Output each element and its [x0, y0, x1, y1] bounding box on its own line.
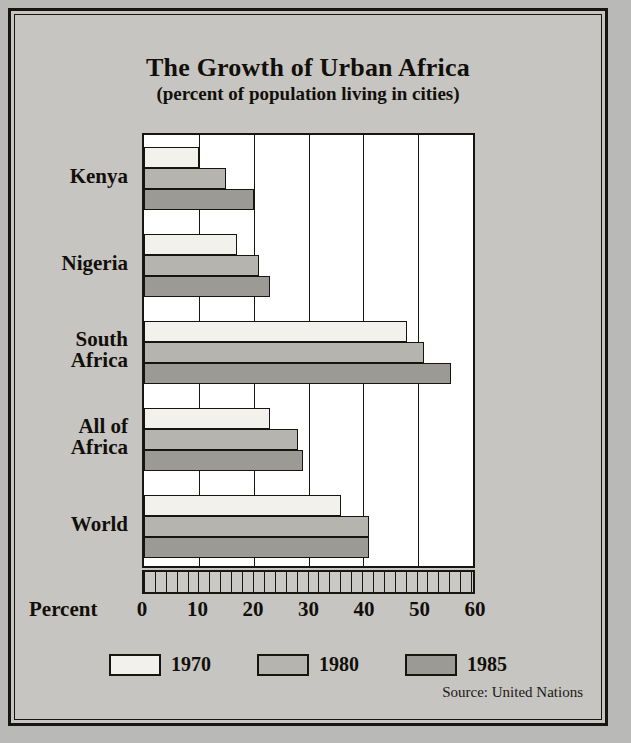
ruler-tick-18	[242, 572, 243, 592]
ruler-tick-2	[155, 572, 156, 592]
bar-nigeria-1985	[144, 276, 270, 297]
ruler-tick-46	[395, 572, 396, 592]
ruler-tick-10	[198, 572, 199, 592]
ruler-tick-58	[460, 572, 461, 592]
page-title: The Growth of Urban Africa	[11, 53, 605, 82]
ruler-tick-48	[406, 572, 407, 592]
bar-row	[144, 429, 473, 450]
chart-subtitle: (percent of population living in cities)	[11, 83, 605, 104]
legend-item-1985: 1985	[405, 653, 507, 676]
bar-row	[144, 450, 473, 471]
bar-row	[144, 321, 473, 342]
bar-nigeria-1970	[144, 234, 237, 255]
bar-row	[144, 255, 473, 276]
ruler-tick-26	[286, 572, 287, 592]
ruler-tick-22	[264, 572, 265, 592]
bar-all-of-africa-1970	[144, 408, 270, 429]
legend-swatch-1980	[257, 654, 309, 676]
bar-row	[144, 234, 473, 255]
ruler-tick-20	[253, 572, 254, 592]
bar-kenya-1985	[144, 189, 254, 210]
bar-group	[144, 396, 473, 483]
x-tick-label-60: 60	[465, 597, 486, 622]
bar-group	[144, 309, 473, 396]
ruler-tick-54	[438, 572, 439, 592]
x-tick-label-0: 0	[137, 597, 148, 622]
bar-kenya-1980	[144, 168, 226, 189]
legend: 197019801985	[11, 653, 605, 676]
ruler-tick-24	[275, 572, 276, 592]
category-label-all-of-africa: All of Africa	[71, 416, 128, 460]
bar-all-of-africa-1980	[144, 429, 298, 450]
ruler-tick-50	[417, 572, 418, 592]
chart-panel: The Growth of Urban Africa (percent of p…	[8, 8, 608, 726]
ruler-tick-8	[188, 572, 189, 592]
bar-row	[144, 516, 473, 537]
legend-item-1970: 1970	[109, 653, 211, 676]
ruler-tick-14	[220, 572, 221, 592]
bar-row	[144, 537, 473, 558]
bar-world-1980	[144, 516, 369, 537]
x-axis-tick-labels: 0102030405060	[11, 597, 611, 623]
bar-row	[144, 168, 473, 189]
bar-kenya-1970	[144, 147, 199, 168]
bar-row	[144, 276, 473, 297]
ruler-tick-6	[177, 572, 178, 592]
axis-ruler-strip	[142, 570, 475, 594]
legend-label-1970: 1970	[171, 653, 211, 676]
ruler-tick-28	[297, 572, 298, 592]
bar-row	[144, 408, 473, 429]
legend-label-1980: 1980	[319, 653, 359, 676]
ruler-tick-52	[427, 572, 428, 592]
plot-area	[142, 133, 475, 568]
source-note: Source: United Nations	[442, 684, 583, 701]
x-tick-label-50: 50	[409, 597, 430, 622]
plot-area-wrapper	[142, 133, 475, 568]
ruler-tick-36	[340, 572, 341, 592]
bar-south-africa-1970	[144, 321, 407, 342]
ruler-tick-16	[231, 572, 232, 592]
bar-south-africa-1985	[144, 363, 451, 384]
ruler-tick-30	[308, 572, 309, 592]
ruler-tick-40	[362, 572, 363, 592]
bar-groups	[144, 135, 473, 566]
ruler-tick-38	[351, 572, 352, 592]
bar-group	[144, 483, 473, 568]
bar-row	[144, 147, 473, 168]
title-block: The Growth of Urban Africa (percent of p…	[11, 53, 605, 104]
legend-item-1980: 1980	[257, 653, 359, 676]
category-label-south-africa: South Africa	[71, 329, 128, 373]
bar-south-africa-1980	[144, 342, 424, 363]
bar-row	[144, 495, 473, 516]
x-tick-label-30: 30	[298, 597, 319, 622]
ruler-tick-4	[166, 572, 167, 592]
category-label-world: World	[71, 514, 128, 536]
category-label-kenya: Kenya	[70, 166, 128, 188]
legend-swatch-1985	[405, 654, 457, 676]
x-tick-label-40: 40	[354, 597, 375, 622]
bar-row	[144, 342, 473, 363]
bar-world-1985	[144, 537, 369, 558]
ruler-tick-42	[373, 572, 374, 592]
legend-label-1985: 1985	[467, 653, 507, 676]
bar-row	[144, 189, 473, 210]
bar-world-1970	[144, 495, 341, 516]
ruler-tick-60	[471, 572, 472, 592]
ruler-tick-56	[449, 572, 450, 592]
ruler-tick-0	[144, 572, 145, 592]
x-tick-label-20: 20	[243, 597, 264, 622]
category-label-nigeria: Nigeria	[62, 253, 128, 275]
x-tick-label-10: 10	[187, 597, 208, 622]
gridline-60	[473, 135, 474, 566]
category-axis-labels: KenyaNigeriaSouth AfricaAll of AfricaWor…	[11, 133, 136, 568]
bar-nigeria-1980	[144, 255, 259, 276]
bar-group	[144, 222, 473, 309]
legend-swatch-1970	[109, 654, 161, 676]
bar-all-of-africa-1985	[144, 450, 303, 471]
ruler-tick-44	[384, 572, 385, 592]
bar-group	[144, 135, 473, 222]
bar-row	[144, 363, 473, 384]
ruler-tick-32	[318, 572, 319, 592]
ruler-tick-12	[209, 572, 210, 592]
ruler-tick-34	[329, 572, 330, 592]
